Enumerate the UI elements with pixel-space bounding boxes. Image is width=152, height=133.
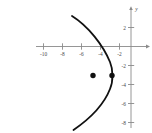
x-tick-label: -10 [40,51,47,57]
x-tick-label: -2 [117,51,122,57]
x-tick-label: -6 [79,51,84,57]
vertex-point-marker [109,73,114,78]
y-tick-label: -6 [122,101,127,107]
x-tick-label: -4 [98,51,103,57]
focus-point-marker [90,73,95,78]
y-tick-label: -8 [122,120,127,126]
x-axis [36,45,150,49]
x-tick-label: -8 [60,51,65,57]
y-axis-tick-labels: 2 -2 -4 -6 -8 [122,25,127,126]
y-tick-label: -2 [122,63,127,69]
y-axis [129,6,133,128]
x-axis-tick-labels: -10 -8 -6 -4 -2 [40,51,122,57]
y-axis-label: y [134,6,138,12]
y-tick-label: 2 [123,25,126,31]
y-tick-label: -4 [122,82,127,88]
graph-figure: -10 -8 -6 -4 -2 2 -2 -4 -6 -8 y [0,0,152,133]
coordinate-plane: -10 -8 -6 -4 -2 2 -2 -4 -6 -8 y [0,0,152,133]
